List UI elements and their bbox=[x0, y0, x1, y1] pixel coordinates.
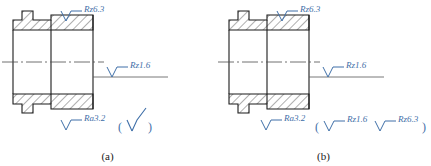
roughness-symbol-bottom: Ra3.2 bbox=[61, 113, 106, 130]
roughness-label-top: Rz6.3 bbox=[83, 4, 105, 14]
roughness-symbol-middle: Rz1.6 bbox=[107, 60, 151, 77]
section-hatch-lower bbox=[229, 94, 309, 113]
paren-group-a: ( ) bbox=[118, 108, 152, 134]
figure-caption-b: (b) bbox=[216, 150, 431, 162]
section-hatch-upper bbox=[229, 11, 309, 30]
part-body-upper bbox=[13, 11, 93, 30]
paren-group-b: ( Rz1.6 Rz6.3 ) bbox=[315, 114, 426, 134]
part-body-lower bbox=[13, 94, 93, 113]
part-body-upper bbox=[229, 11, 309, 30]
engineering-drawing-b: Rz6.3 Rz1.6 Ra3.2 ( Rz1.6 Rz6.3 bbox=[216, 0, 431, 166]
roughness-label-bottom: Ra3.2 bbox=[283, 113, 306, 123]
paren-close: ) bbox=[148, 120, 152, 134]
figure-b: Rz6.3 Rz1.6 Ra3.2 ( Rz1.6 Rz6.3 bbox=[216, 0, 431, 166]
paren-roughness-label-1: Rz1.6 bbox=[346, 114, 368, 124]
paren-open: ( bbox=[315, 120, 319, 134]
engineering-drawing-a: Rz6.3 Rz1.6 Ra3.2 ( ) bbox=[0, 0, 215, 166]
roughness-symbol-bottom: Ra3.2 bbox=[261, 113, 306, 130]
part-body-lower bbox=[229, 94, 309, 113]
basic-roughness-tick-left-icon bbox=[127, 120, 132, 131]
roughness-symbol-middle: Rz1.6 bbox=[323, 60, 367, 77]
roughness-label-middle: Rz1.6 bbox=[345, 60, 367, 70]
figure-caption-a: (a) bbox=[0, 150, 215, 162]
figure-a: Rz6.3 Rz1.6 Ra3.2 ( ) (a) bbox=[0, 0, 215, 166]
roughness-label-bottom: Ra3.2 bbox=[83, 113, 106, 123]
basic-roughness-tick-icon bbox=[132, 108, 146, 131]
section-hatch-upper bbox=[13, 11, 93, 30]
paren-roughness-label-2: Rz6.3 bbox=[397, 114, 419, 124]
paren-roughness-symbol-2: Rz6.3 bbox=[375, 114, 419, 131]
paren-roughness-symbol-1: Rz1.6 bbox=[324, 114, 368, 131]
paren-close: ) bbox=[422, 120, 426, 134]
paren-open: ( bbox=[118, 120, 122, 134]
roughness-label-top: Rz6.3 bbox=[299, 4, 321, 14]
section-hatch-lower bbox=[13, 94, 93, 113]
roughness-label-middle: Rz1.6 bbox=[129, 60, 151, 70]
